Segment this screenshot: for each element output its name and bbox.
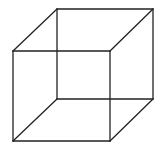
wireframe-cube-diagram xyxy=(0,0,163,148)
cube-edge-front-bottom-right-to-back-bottom-right xyxy=(110,99,153,141)
cube-edge-front-bottom-left-to-back-bottom-left xyxy=(13,99,57,141)
cube-edge-front-top-right-to-back-top-right xyxy=(110,9,153,51)
cube-edge-front-top-left-to-back-top-left xyxy=(13,9,57,51)
